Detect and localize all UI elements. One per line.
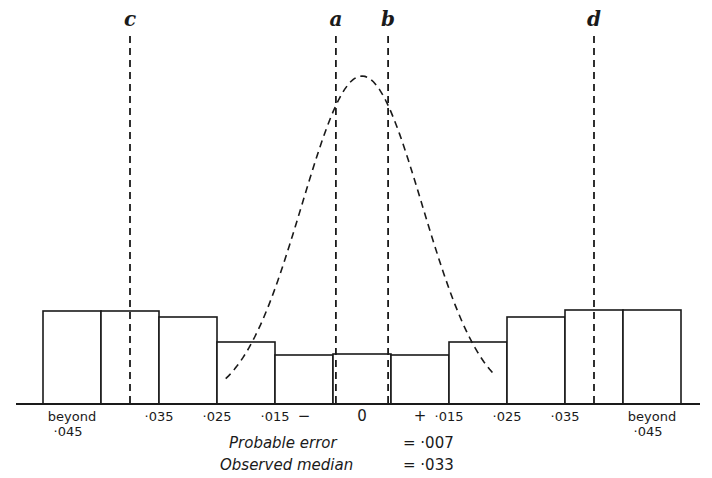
histogram-bar	[217, 342, 275, 404]
histogram-bar	[159, 317, 217, 404]
observed-median-value: = ·033	[403, 456, 454, 474]
histogram-bar	[333, 354, 391, 404]
x-tick-label: beyond	[628, 409, 676, 424]
x-tick-label: 0	[357, 407, 367, 425]
reference-label-b: b	[381, 7, 395, 31]
x-tick-label: ·015	[435, 409, 464, 424]
tick-labels-group: beyond·045·035·025·015−0+·015·025·035bey…	[48, 407, 676, 439]
x-tick-label: ·035	[145, 409, 174, 424]
x-tick-label: +	[414, 407, 427, 425]
x-tick-label-line2: ·045	[634, 424, 663, 439]
reference-label-c: c	[124, 7, 136, 31]
x-tick-label: ·035	[551, 409, 580, 424]
histogram-bar	[275, 355, 333, 404]
x-tick-label: ·025	[203, 409, 232, 424]
x-tick-label: ·025	[493, 409, 522, 424]
probable-error-value: = ·007	[403, 434, 454, 452]
probable-error-label: Probable error	[229, 434, 338, 452]
histogram-bar	[43, 311, 101, 404]
histogram-bar	[391, 355, 449, 404]
x-tick-label-line2: ·045	[54, 424, 83, 439]
histogram-chart: cabd beyond·045·035·025·015−0+·015·025·0…	[0, 0, 712, 478]
reference-label-d: d	[587, 7, 601, 31]
bars-group	[43, 310, 681, 404]
x-tick-label: beyond	[48, 409, 96, 424]
observed-median-label: Observed median	[220, 456, 353, 474]
reference-label-a: a	[329, 7, 342, 31]
x-tick-label: ·015	[261, 409, 290, 424]
normal-curve	[226, 76, 496, 379]
histogram-bar	[623, 310, 681, 404]
x-tick-label: −	[298, 407, 311, 425]
histogram-bar	[507, 317, 565, 404]
